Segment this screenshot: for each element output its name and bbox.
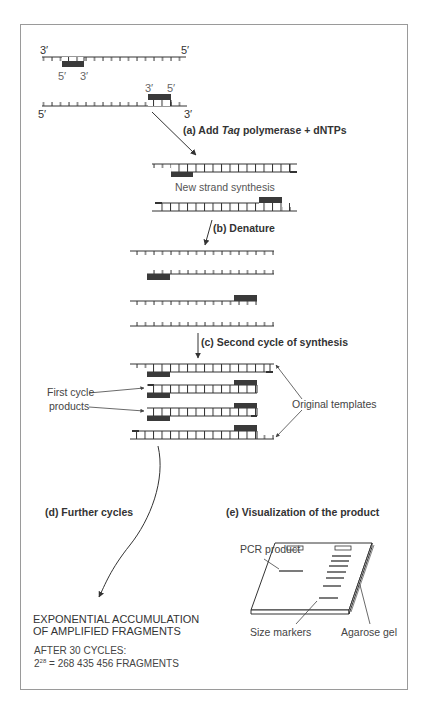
step-b-label: (b) Denature bbox=[213, 222, 275, 234]
cycle-count-result: AFTER 30 CYCLES: 228 = 268 435 456 FRAGM… bbox=[34, 645, 179, 669]
first-cycle-products-label: First cycle bbox=[47, 386, 94, 398]
diagram-graphics bbox=[0, 0, 432, 709]
cycle2-row-3 bbox=[147, 403, 257, 421]
arrow-step-b bbox=[205, 220, 212, 245]
new-strand-synthesis-caption: New strand synthesis bbox=[175, 181, 275, 193]
step-e-label: (e) Visualization of the product bbox=[226, 506, 379, 518]
cycle2-row-1 bbox=[130, 364, 274, 377]
denatured-strand-3 bbox=[130, 295, 257, 305]
pcr-diagram: 3′ 5′ 5′ 3′ 3′ 5′ 5′ 3′ (a) Add Taq poly… bbox=[0, 0, 432, 709]
exponential-accumulation-heading: EXPONENTIAL ACCUMULATION OF AMPLIFIED FR… bbox=[33, 613, 199, 637]
duplex-2 bbox=[152, 197, 297, 211]
denatured-strand-2 bbox=[147, 270, 274, 280]
denatured-strand-4 bbox=[130, 322, 274, 326]
primer-label-5prime: 5′ bbox=[58, 70, 66, 82]
denatured-strand-1 bbox=[130, 251, 274, 255]
step-a-label: (a) Add Taq polymerase + dNTPs bbox=[183, 124, 347, 136]
step-d-label: (d) Further cycles bbox=[45, 506, 133, 518]
result-line-1: EXPONENTIAL ACCUMULATION bbox=[33, 613, 199, 625]
end-label-5prime: 5′ bbox=[38, 108, 46, 120]
arrow-first-cycle-2 bbox=[89, 407, 144, 411]
arrow-step-d bbox=[99, 446, 160, 597]
gel-well bbox=[335, 546, 351, 550]
original-templates-label: Original templates bbox=[292, 398, 377, 410]
end-label-3prime: 3′ bbox=[40, 44, 48, 56]
cycle2-row-4 bbox=[130, 425, 274, 439]
end-label-5prime: 5′ bbox=[181, 44, 189, 56]
end-label-3prime: 3′ bbox=[184, 108, 192, 120]
primer-block bbox=[62, 61, 84, 67]
fragment-equation: 228 = 268 435 456 FRAGMENTS bbox=[34, 656, 179, 669]
duplex-1 bbox=[152, 164, 297, 177]
arrow-original-template-2 bbox=[276, 410, 302, 437]
pointer-agarose-gel bbox=[360, 585, 370, 624]
arrow-original-template-1 bbox=[276, 365, 302, 399]
cycle2-row-2 bbox=[147, 380, 257, 398]
primer-label-3prime: 3′ bbox=[145, 82, 153, 94]
pcr-product-label: PCR product bbox=[240, 543, 300, 555]
initial-bottom-strand bbox=[42, 94, 187, 106]
step-c-label: (c) Second cycle of synthesis bbox=[201, 336, 348, 348]
primer-block bbox=[148, 94, 171, 100]
primer-label-3prime: 3′ bbox=[80, 70, 88, 82]
initial-top-strand bbox=[42, 57, 186, 67]
arrow-first-cycle-1 bbox=[89, 388, 144, 393]
primer-label-5prime: 5′ bbox=[167, 82, 175, 94]
result-line-2: OF AMPLIFIED FRAGMENTS bbox=[33, 625, 199, 637]
size-markers-label: Size markers bbox=[250, 626, 311, 638]
result-line-3: AFTER 30 CYCLES: bbox=[34, 645, 179, 656]
agarose-gel-label: Agarose gel bbox=[341, 626, 397, 638]
first-cycle-products-label-2: products bbox=[49, 400, 89, 412]
